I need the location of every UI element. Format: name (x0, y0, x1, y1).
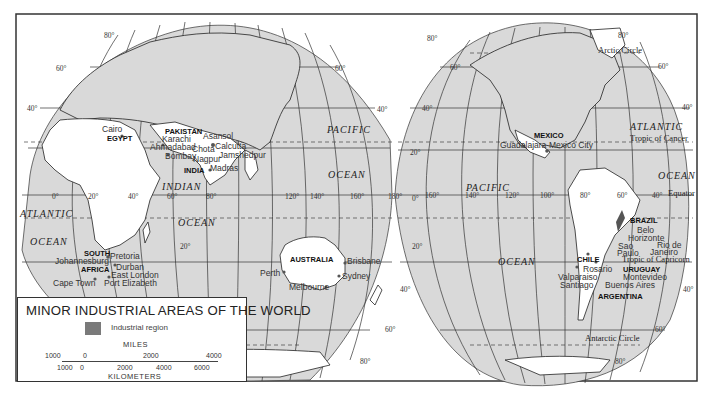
svg-text:80°: 80° (206, 192, 217, 201)
km-tick: 0 (80, 364, 84, 371)
svg-text:80°: 80° (618, 31, 629, 40)
km-tick: 1000 (57, 364, 73, 371)
svg-text:Port Elizabeth: Port Elizabeth (104, 278, 157, 288)
map-legend: MINOR INDUSTRIAL AREAS OF THE WORLD Indu… (17, 297, 247, 382)
svg-text:Brisbane: Brisbane (347, 256, 381, 266)
svg-text:Paulo: Paulo (617, 248, 639, 258)
svg-text:120°: 120° (285, 192, 299, 201)
svg-text:INDIAN: INDIAN (161, 181, 202, 192)
svg-text:OCEAN: OCEAN (498, 256, 536, 267)
svg-text:20°: 20° (88, 192, 99, 201)
svg-text:40°: 40° (683, 285, 694, 294)
svg-text:Tropic of Cancer: Tropic of Cancer (630, 133, 688, 143)
svg-text:20°: 20° (412, 242, 423, 251)
svg-text:60°: 60° (658, 62, 669, 71)
km-tick: 4000 (156, 364, 172, 371)
svg-text:Mexico City: Mexico City (549, 140, 594, 150)
svg-text:Santiago: Santiago (560, 280, 594, 290)
svg-text:ARGENTINA: ARGENTINA (598, 292, 643, 301)
svg-text:ATLANTIC: ATLANTIC (19, 208, 73, 219)
svg-text:140°: 140° (310, 192, 324, 201)
svg-text:Madras: Madras (210, 163, 238, 173)
svg-text:CHILE: CHILE (577, 255, 600, 264)
svg-text:Sydney: Sydney (342, 271, 371, 281)
svg-text:40°: 40° (377, 105, 388, 114)
svg-text:Janeiro: Janeiro (650, 247, 678, 257)
svg-text:40°: 40° (652, 191, 663, 200)
svg-text:OCEAN: OCEAN (178, 217, 216, 228)
scale-miles-label: MILES (123, 340, 148, 349)
svg-text:0°: 0° (52, 192, 59, 201)
miles-tick: 2000 (143, 352, 159, 359)
svg-text:100°: 100° (540, 191, 554, 200)
svg-text:Equator: Equator (668, 188, 695, 198)
industrial-region-swatch (85, 322, 101, 335)
svg-text:40°: 40° (27, 104, 38, 113)
svg-text:40°: 40° (682, 103, 693, 112)
svg-text:AUSTRALIA: AUSTRALIA (290, 255, 334, 264)
svg-text:PACIFIC: PACIFIC (326, 124, 371, 135)
svg-text:160°: 160° (350, 192, 364, 201)
svg-text:Buenos Aires: Buenos Aires (605, 280, 655, 290)
svg-text:Cape Town: Cape Town (53, 278, 96, 288)
svg-text:40°: 40° (400, 285, 411, 294)
svg-text:80°: 80° (360, 357, 371, 366)
svg-text:0°: 0° (412, 194, 419, 203)
svg-text:OCEAN: OCEAN (328, 169, 366, 180)
svg-text:MEXICO: MEXICO (534, 131, 564, 140)
miles-tick: 4000 (206, 352, 222, 359)
svg-text:Guadalajara: Guadalajara (500, 140, 547, 150)
svg-text:80°: 80° (104, 31, 115, 40)
svg-text:EGYPT: EGYPT (107, 134, 133, 143)
svg-text:40°: 40° (128, 192, 139, 201)
svg-text:180°: 180° (388, 192, 402, 201)
svg-text:60°: 60° (335, 64, 346, 73)
miles-tick: 1000 (45, 352, 61, 359)
scale-km-label: KILOMETERS (108, 372, 161, 381)
svg-text:Melbourne: Melbourne (289, 282, 329, 292)
svg-text:160°: 160° (425, 191, 439, 200)
svg-text:80°: 80° (615, 357, 626, 366)
svg-text:INDIA: INDIA (184, 166, 205, 175)
svg-text:60°: 60° (655, 325, 666, 334)
svg-text:80°: 80° (580, 191, 591, 200)
svg-text:Asansol: Asansol (203, 131, 233, 141)
svg-text:ATLANTIC: ATLANTIC (629, 121, 683, 132)
svg-text:Arctic Circle: Arctic Circle (598, 45, 642, 55)
svg-text:60°: 60° (56, 64, 67, 73)
svg-text:60°: 60° (167, 192, 178, 201)
svg-text:60°: 60° (617, 191, 628, 200)
svg-text:Cairo: Cairo (102, 124, 123, 134)
industrial-region-label: Industrial region (111, 323, 168, 332)
map-title: MINOR INDUSTRIAL AREAS OF THE WORLD (26, 303, 311, 318)
svg-text:Chota: Chota (192, 144, 215, 154)
svg-text:OCEAN: OCEAN (658, 170, 696, 181)
svg-text:Antarctic Circle: Antarctic Circle (585, 333, 640, 343)
svg-text:60°: 60° (385, 325, 396, 334)
svg-text:Jamshedpur: Jamshedpur (219, 150, 266, 160)
km-tick: 2000 (117, 364, 133, 371)
svg-text:PACIFIC: PACIFIC (465, 182, 510, 193)
svg-text:40°: 40° (422, 104, 433, 113)
km-tick: 6000 (194, 364, 210, 371)
svg-text:20°: 20° (180, 242, 191, 251)
scale-bar (62, 361, 218, 362)
svg-text:20°: 20° (410, 148, 421, 157)
svg-text:BRAZIL: BRAZIL (630, 216, 658, 225)
svg-text:60°: 60° (450, 63, 461, 72)
svg-text:Pretoria: Pretoria (110, 251, 140, 261)
svg-text:80°: 80° (427, 34, 438, 43)
svg-text:Johannesburg: Johannesburg (55, 256, 109, 266)
miles-tick: 0 (83, 352, 87, 359)
svg-text:Perth: Perth (260, 268, 281, 278)
svg-text:AFRICA: AFRICA (81, 265, 110, 274)
svg-text:OCEAN: OCEAN (30, 236, 68, 247)
